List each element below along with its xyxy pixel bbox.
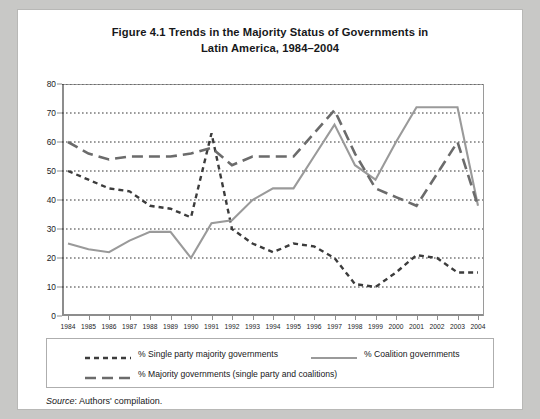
y-axis-tick-mark xyxy=(57,229,62,230)
x-axis-tick-label: 1985 xyxy=(81,323,96,330)
y-axis-tick-mark xyxy=(57,200,62,201)
y-axis-tick-mark xyxy=(57,142,62,143)
x-axis-tick-label: 1998 xyxy=(348,323,363,330)
x-axis-tick-mark xyxy=(253,316,254,320)
x-axis-tick-mark xyxy=(150,316,151,320)
legend-swatch-single-party xyxy=(85,349,131,359)
legend-item-majority: % Majority governments (single party and… xyxy=(85,369,337,379)
x-axis-tick-mark xyxy=(109,316,110,320)
y-axis-tick-label: 10 xyxy=(47,282,56,292)
x-axis-tick-label: 1990 xyxy=(184,323,199,330)
x-axis-tick-label: 1984 xyxy=(61,323,76,330)
legend-label-majority: % Majority governments (single party and… xyxy=(138,369,337,379)
x-axis-tick-label: 1989 xyxy=(163,323,178,330)
legend-swatch-coalition xyxy=(311,349,357,359)
y-axis-tick-mark xyxy=(57,171,62,172)
title-line-2: Latin America, 1984–2004 xyxy=(201,42,339,54)
x-axis-tick-mark xyxy=(437,316,438,320)
legend-item-single-party: % Single party majority governments xyxy=(85,349,278,359)
x-axis-tick-label: 2000 xyxy=(389,323,404,330)
title-line-1: Figure 4.1 Trends in the Majority Status… xyxy=(112,26,429,38)
x-axis-tick-mark xyxy=(335,316,336,320)
x-axis-tick-label: 1995 xyxy=(286,323,301,330)
x-axis-tick-mark xyxy=(171,316,172,320)
chart-legend: % Single party majority governments % Co… xyxy=(46,338,494,388)
y-axis-tick-label: 50 xyxy=(47,166,56,176)
legend-label-coalition: % Coalition governments xyxy=(364,349,460,359)
x-axis-tick-label: 2001 xyxy=(409,323,424,330)
y-axis-tick-mark xyxy=(57,84,62,85)
x-axis-tick-label: 1992 xyxy=(225,323,240,330)
y-axis-tick-label: 0 xyxy=(51,311,56,321)
x-axis-tick-mark xyxy=(376,316,377,320)
chart-svg xyxy=(62,84,484,316)
x-axis-tick-mark xyxy=(478,316,479,320)
legend-swatch-majority xyxy=(85,369,131,379)
x-axis-tick-label: 1997 xyxy=(327,323,342,330)
x-axis-tick-mark xyxy=(396,316,397,320)
y-axis-tick-label: 30 xyxy=(47,224,56,234)
chart-plot-area: 01020304050607080 1984198519861987198819… xyxy=(62,84,484,316)
x-axis-tick-label: 1986 xyxy=(102,323,117,330)
series-line-coalition xyxy=(68,107,478,258)
x-axis-tick-mark xyxy=(294,316,295,320)
page-title: Figure 4.1 Trends in the Majority Status… xyxy=(18,24,522,56)
y-axis-tick-label: 80 xyxy=(47,79,56,89)
x-axis-tick-label: 1991 xyxy=(204,323,219,330)
x-axis-tick-mark xyxy=(314,316,315,320)
series-line-single_party xyxy=(68,133,478,287)
x-axis-tick-mark xyxy=(89,316,90,320)
x-axis-tick-mark xyxy=(232,316,233,320)
x-axis-tick-label: 1988 xyxy=(143,323,158,330)
y-axis-tick-label: 70 xyxy=(47,108,56,118)
y-axis-tick-mark xyxy=(57,287,62,288)
x-axis-tick-mark xyxy=(68,316,69,320)
legend-item-coalition: % Coalition governments xyxy=(311,349,460,359)
x-axis-tick-mark xyxy=(191,316,192,320)
x-axis-tick-label: 1996 xyxy=(307,323,322,330)
source-label: Source xyxy=(46,396,75,406)
x-axis-tick-mark xyxy=(355,316,356,320)
x-axis-tick-mark xyxy=(417,316,418,320)
x-axis-tick-label: 2004 xyxy=(471,323,486,330)
x-axis-tick-label: 1999 xyxy=(368,323,383,330)
y-axis-tick-mark xyxy=(57,113,62,114)
y-axis-tick-mark xyxy=(57,258,62,259)
y-axis-tick-label: 20 xyxy=(47,253,56,263)
x-axis-tick-label: 1993 xyxy=(245,323,260,330)
source-note: Source: Authors' compilation. xyxy=(46,396,162,406)
y-axis-tick-mark xyxy=(57,316,62,317)
x-axis-tick-label: 2003 xyxy=(450,323,465,330)
figure-panel: Figure 4.1 Trends in the Majority Status… xyxy=(18,10,522,409)
legend-label-single-party: % Single party majority governments xyxy=(138,349,278,359)
x-axis-tick-label: 2002 xyxy=(430,323,445,330)
y-axis-tick-label: 60 xyxy=(47,137,56,147)
source-text: : Authors' compilation. xyxy=(75,396,163,406)
x-axis-tick-label: 1994 xyxy=(266,323,281,330)
x-axis-tick-mark xyxy=(212,316,213,320)
x-axis-tick-mark xyxy=(458,316,459,320)
y-axis-tick-label: 40 xyxy=(47,195,56,205)
x-axis-tick-label: 1987 xyxy=(122,323,137,330)
x-axis-tick-mark xyxy=(130,316,131,320)
x-axis-tick-mark xyxy=(273,316,274,320)
